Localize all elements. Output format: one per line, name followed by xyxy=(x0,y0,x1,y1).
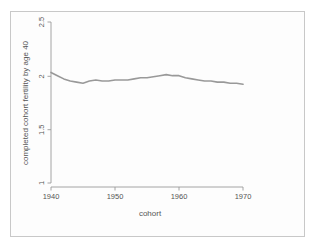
chart-figure: 2.5 2 1.5 1 completed cohort fertility b… xyxy=(0,0,316,249)
y-tick-label-2.5: 2.5 xyxy=(37,17,46,27)
x-tick-label-1970: 1970 xyxy=(235,192,252,201)
x-tick-label-1950: 1950 xyxy=(107,192,124,201)
x-tick-label-1960: 1960 xyxy=(171,192,188,201)
y-tick-label-1.5: 1.5 xyxy=(37,124,46,134)
y-axis-title: completed cohort fertility by age 40 xyxy=(21,40,30,165)
x-tick-label-1940: 1940 xyxy=(43,192,60,201)
y-axis: 2.5 2 1.5 1 completed cohort fertility b… xyxy=(21,17,51,185)
line-chart: 2.5 2 1.5 1 completed cohort fertility b… xyxy=(0,0,316,249)
x-axis-title: cohort xyxy=(139,209,162,218)
y-tick-label-2: 2 xyxy=(37,74,46,78)
x-axis: 1940 1950 1960 1970 cohort xyxy=(43,187,252,218)
fertility-line xyxy=(51,72,243,84)
y-tick-label-1: 1 xyxy=(37,181,46,185)
